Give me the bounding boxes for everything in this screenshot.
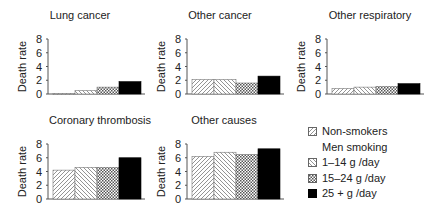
bar-4	[258, 76, 280, 94]
bar-1	[332, 89, 354, 95]
y-tick-label: 6	[36, 152, 42, 164]
y-tick-label: 4	[36, 166, 42, 178]
bar-4	[398, 84, 420, 94]
bar-1	[53, 170, 75, 199]
y-tick-label: 8	[315, 33, 321, 45]
bar-3	[236, 83, 258, 94]
chart-panel-coronary-thrombosis: Coronary thrombosisDeath rate02468	[16, 114, 152, 205]
panel-title: Other respiratory	[329, 9, 412, 21]
panel-title: Other cancer	[188, 9, 252, 21]
y-tick-label: 6	[36, 47, 42, 59]
bar-2	[354, 87, 376, 94]
bar-1	[192, 156, 214, 199]
legend-label: 15–24 g /day	[322, 171, 386, 187]
legend-group-heading: Men smoking	[308, 140, 387, 156]
bar-2	[75, 167, 97, 199]
bar-3	[236, 154, 258, 199]
y-tick-label: 0	[175, 193, 181, 205]
chart-legend: Non-smokers Men smoking 1–14 g /day 15–2…	[308, 124, 387, 202]
legend-item-non-smokers: Non-smokers	[308, 124, 387, 140]
legend-item-15-24: 15–24 g /day	[308, 171, 387, 187]
bar-1	[53, 94, 75, 95]
y-tick-label: 4	[315, 61, 321, 73]
legend-item-1-14: 1–14 g /day	[308, 155, 387, 171]
bar-2	[214, 152, 236, 199]
bar-4	[119, 82, 141, 94]
diag-right-hatch-swatch-icon	[308, 127, 317, 136]
bar-3	[97, 87, 119, 94]
y-tick-label: 0	[36, 193, 42, 205]
y-tick-label: 4	[36, 61, 42, 73]
bar-4	[119, 158, 141, 199]
legend-label: Men smoking	[322, 140, 387, 156]
chart-panel-other-cancer: Other cancerDeath rate02468	[155, 9, 284, 100]
y-tick-label: 6	[175, 152, 181, 164]
y-axis-label: Death rate	[16, 146, 28, 197]
chart-panel-other-respiratory: Other respiratoryDeath rate02468	[295, 9, 424, 100]
bar-3	[376, 86, 398, 94]
y-tick-label: 4	[175, 61, 181, 73]
diag-left-hatch-swatch-icon	[308, 158, 317, 167]
y-tick-label: 8	[36, 138, 42, 150]
y-tick-label: 2	[36, 74, 42, 86]
bar-2	[214, 80, 236, 94]
legend-item-25-plus: 25 + g /day	[308, 186, 387, 202]
y-axis-label: Death rate	[155, 146, 167, 197]
solid-swatch-icon	[308, 189, 317, 198]
legend-label: 25 + g /day	[322, 186, 377, 202]
y-tick-label: 0	[315, 88, 321, 100]
bar-1	[192, 80, 214, 94]
y-tick-label: 2	[175, 179, 181, 191]
chart-panel-lung-cancer: Lung cancerDeath rate02468	[16, 9, 145, 100]
panel-title: Lung cancer	[50, 9, 111, 21]
bar-3	[97, 167, 119, 199]
y-tick-label: 8	[36, 33, 42, 45]
y-tick-label: 6	[315, 47, 321, 59]
y-axis-label: Death rate	[155, 41, 167, 92]
chart-panel-other-causes: Other causesDeath rate02468	[155, 114, 284, 205]
y-tick-label: 0	[36, 88, 42, 100]
panel-title: Other causes	[191, 114, 257, 126]
y-tick-label: 2	[36, 179, 42, 191]
y-tick-label: 4	[175, 166, 181, 178]
y-tick-label: 8	[175, 138, 181, 150]
legend-label: 1–14 g /day	[322, 155, 380, 171]
y-tick-label: 0	[175, 88, 181, 100]
y-tick-label: 2	[175, 74, 181, 86]
y-tick-label: 2	[315, 74, 321, 86]
legend-label: Non-smokers	[322, 124, 387, 140]
y-tick-label: 8	[175, 33, 181, 45]
bar-4	[258, 149, 280, 199]
y-axis-label: Death rate	[295, 41, 307, 92]
panel-title: Coronary thrombosis	[49, 114, 152, 126]
crosshatch-swatch-icon	[308, 174, 317, 183]
y-axis-label: Death rate	[16, 41, 28, 92]
bar-2	[75, 91, 97, 94]
y-tick-label: 6	[175, 47, 181, 59]
